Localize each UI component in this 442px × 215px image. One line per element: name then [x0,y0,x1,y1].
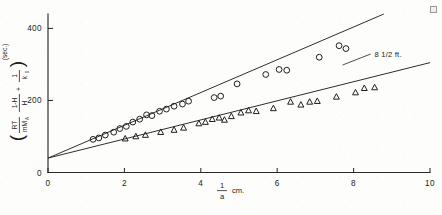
x-tick-label: 0 [46,179,51,188]
y-tick-label: 0 [37,169,42,178]
y-axis-label-unit: (sec.) [1,44,9,60]
x-tick-label: 10 [425,179,435,188]
data-point-triangle [228,113,234,119]
data-point-triangle [353,89,359,95]
data-point-triangle [314,98,320,104]
annotation-label: 8 1/2 ft. [375,50,402,59]
y-axis-term1-denominator: mM [21,121,28,132]
x-axis-ticks [48,168,430,173]
data-point-circle [180,101,186,107]
data-point-circle [218,93,224,99]
annotation-leader-line [343,54,371,65]
y-axis-term-rt-over-mma: RT mM A [11,116,30,133]
y-tick-label: 200 [27,96,42,105]
y-axis-term2-numerator: 1-H [11,97,18,108]
y-axis-label-plus: + [15,87,22,91]
y-axis-label: (sec.) ( ) RT mM A 1-H H + 1 [1,44,30,141]
chart-plot: 0200400 0246810 8 1/2 ft. 1 a cm. (sec.)… [0,0,442,215]
data-point-circle [284,67,290,73]
data-point-triangle [298,102,304,108]
fit-line-upper-series [48,14,384,158]
data-point-circle [263,72,269,78]
x-axis-label-denominator: a [220,192,225,201]
data-point-triangle [361,85,367,91]
data-point-circle [316,54,322,60]
x-tick-label: 4 [198,179,203,188]
data-point-triangle [270,105,276,111]
data-point-circle [343,46,349,52]
data-point-triangle [288,99,294,105]
y-tick-label: 400 [27,24,42,33]
data-point-triangle [333,94,339,100]
y-axis-label-close-paren: ) [6,61,27,67]
axes [48,14,430,173]
y-axis-term1-denominator-subscript: A [25,116,30,120]
y-axis-term3-denominator-subscript: 0 [25,70,30,73]
y-axis-label-open-paren: ( [6,134,27,141]
data-point-circle [234,81,240,87]
scan-artifact-mark [430,6,437,13]
annotation-group: 8 1/2 ft. [343,50,402,66]
x-axis-label-unit: cm. [232,186,244,195]
data-points-lower-series [122,84,377,141]
y-axis-term-1-over-k0: 1 k 0 [11,70,30,82]
data-point-triangle [253,108,259,114]
x-axis-label: 1 a cm. [217,181,244,201]
x-tick-label: 2 [122,179,127,188]
data-point-circle [276,67,282,73]
data-point-triangle [372,84,378,90]
y-axis-tick-labels: 0200400 [27,24,42,177]
data-point-triangle [222,117,228,123]
x-tick-label: 6 [275,179,280,188]
data-point-triangle [181,125,187,131]
y-axis-term3-denominator: k [21,75,28,79]
y-axis-term3-numerator: 1 [11,74,18,78]
data-point-circle [186,98,192,104]
x-axis-label-numerator: 1 [220,181,224,190]
figure-container: 0200400 0246810 8 1/2 ft. 1 a cm. (sec.)… [0,0,442,215]
y-axis-term-1mh-over-h: 1-H H [11,94,29,112]
data-point-circle [211,95,217,101]
data-point-circle [336,43,342,49]
y-axis-term2-denominator: H [21,100,28,105]
data-point-triangle [307,99,313,105]
fit-line-lower-series [48,63,430,158]
y-axis-term1-numerator: RT [11,121,18,130]
y-axis-ticks [48,28,53,100]
x-tick-label: 8 [351,179,356,188]
